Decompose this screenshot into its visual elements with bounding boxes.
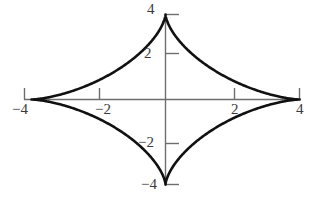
x-tick-label-neg4: −4: [12, 102, 28, 117]
plot-canvas: [0, 0, 311, 197]
y-tick-label-pos4: 4: [147, 2, 155, 17]
y-tick-label-neg4: −4: [141, 177, 157, 192]
x-tick-label-neg2: −2: [95, 102, 111, 117]
x-tick-label-pos2: 2: [231, 102, 239, 117]
x-tick-label-pos4: 4: [296, 102, 304, 117]
y-tick-label-pos2: 2: [144, 46, 152, 61]
astroid-figure: −4 −2 2 4 4 2 −2 −4: [0, 0, 311, 197]
y-tick-label-neg2: −2: [138, 135, 154, 150]
